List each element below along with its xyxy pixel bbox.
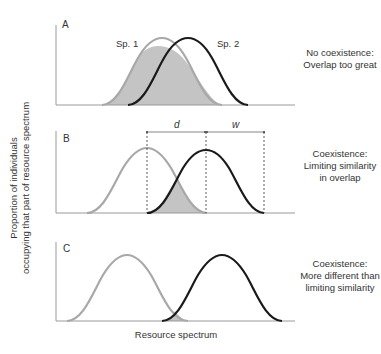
panel-c: C xyxy=(56,242,295,321)
panel-c-species2-curve xyxy=(162,255,282,321)
y-axis-label-line1: Proportion of individuals xyxy=(8,88,20,288)
species2-label: Sp. 2 xyxy=(217,38,239,49)
panel-c-species1-curve xyxy=(67,255,188,321)
x-axis-label: Resource spectrum xyxy=(56,329,296,340)
panel-b-note: Coexistence: Limiting similarity in over… xyxy=(285,148,381,184)
panel-c-note-line1: Coexistence: xyxy=(285,258,381,270)
width-w-label: w xyxy=(232,119,240,130)
panel-b-note-line1: Coexistence: xyxy=(285,148,381,160)
y-axis-label-line2: occupying that part of resource spectrum xyxy=(20,88,32,288)
panel-a-overlap-area xyxy=(102,46,222,105)
panel-a-note: No coexistence: Overlap too great xyxy=(285,47,381,71)
arrow-tip-2 xyxy=(204,131,206,133)
panel-b: d w B xyxy=(56,119,295,213)
panel-a-note-line2: Overlap too great xyxy=(285,59,381,71)
panel-b-note-line3: in overlap xyxy=(285,172,381,184)
panel-c-note: Coexistence: More different than limitin… xyxy=(285,258,381,294)
panel-b-note-line2: Limiting similarity xyxy=(285,160,381,172)
species1-label: Sp. 1 xyxy=(116,38,138,49)
panel-c-note-line3: limiting similarity xyxy=(285,282,381,294)
distance-d-label: d xyxy=(174,119,180,130)
panel-c-note-line2: More different than xyxy=(285,270,381,282)
y-axis-label: Proportion of individuals occupying that… xyxy=(8,88,32,288)
panel-a: A Sp. 1 Sp. 2 xyxy=(56,19,295,105)
arrow-tip-1 xyxy=(146,131,148,133)
panel-a-note-line1: No coexistence: xyxy=(285,47,381,59)
arrow-tip-4 xyxy=(263,131,265,133)
panel-b-label: B xyxy=(63,133,70,144)
panel-a-label: A xyxy=(62,19,69,30)
panel-c-label: C xyxy=(63,243,70,254)
arrow-tip-3 xyxy=(206,131,208,133)
